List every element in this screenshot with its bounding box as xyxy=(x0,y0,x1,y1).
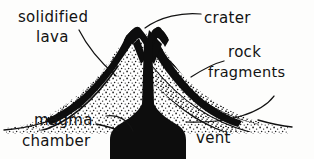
label-magma-line1: magma xyxy=(34,111,93,129)
label-crater: crater xyxy=(204,9,251,27)
label-rock-line2: fragments xyxy=(208,64,285,80)
label-magma-line2: chamber xyxy=(22,132,91,150)
label-vent: vent xyxy=(196,129,231,147)
label-solidified-lava-line2: lava xyxy=(36,28,69,46)
label-rock-line1: rock xyxy=(228,43,261,61)
label-solidified-lava-line1: solidified xyxy=(18,8,88,26)
volcano-cross-section-diagram: solidified lava crater rock fragments ma… xyxy=(0,0,314,159)
leader-crater xyxy=(145,14,201,28)
volcanic-conduit xyxy=(142,40,154,104)
